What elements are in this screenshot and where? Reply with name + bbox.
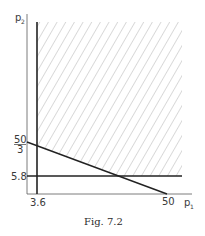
feasible-region-hatched bbox=[37, 22, 182, 176]
figure-7-2: p 2 p 1 50 3 5.8 3.6 50 Fig. 7.2 bbox=[0, 0, 205, 236]
x-tick-50: 50 bbox=[162, 196, 175, 207]
x-tick-3-6: 3.6 bbox=[30, 197, 46, 208]
x-axis-label-subscript: 1 bbox=[190, 203, 194, 210]
y-tick-5-8: 5.8 bbox=[11, 171, 27, 182]
y-axis-label-subscript: 2 bbox=[21, 18, 25, 25]
figure-caption: Fig. 7.2 bbox=[84, 216, 123, 227]
y-tick-fraction-denominator: 3 bbox=[17, 144, 23, 155]
